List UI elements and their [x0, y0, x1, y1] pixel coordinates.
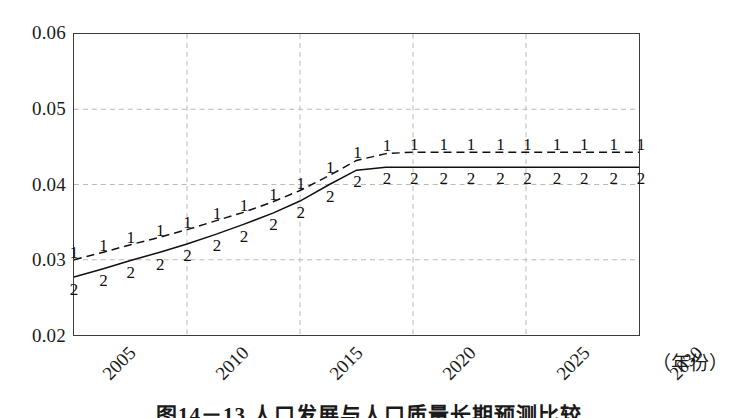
series-marker-1: 1 [580, 135, 589, 152]
x-tick-label: 2025 [552, 342, 594, 384]
series-marker-2: 2 [496, 170, 505, 187]
series-marker-1: 1 [326, 159, 335, 176]
series-marker-2: 2 [99, 272, 108, 289]
y-tick-label: 0.02 [32, 325, 66, 347]
series-marker-2: 2 [297, 204, 306, 221]
series-marker-2: 2 [240, 227, 249, 244]
series-marker-1: 1 [410, 135, 419, 152]
x-axis-tick-labels: 200520102015202020252030 [73, 336, 640, 396]
series-marker-2: 2 [156, 255, 165, 272]
series-marker-1: 1 [269, 185, 278, 202]
series-marker-1: 1 [439, 135, 448, 152]
series-marker-2: 2 [183, 247, 192, 264]
series-marker-2: 2 [580, 170, 589, 187]
series-marker-1: 1 [353, 144, 362, 161]
series-marker-2: 2 [439, 170, 448, 187]
series-marker-1: 1 [99, 236, 108, 253]
series-marker-2: 2 [637, 170, 646, 187]
series-marker-1: 1 [183, 213, 192, 230]
series-marker-2: 2 [213, 237, 222, 254]
series-marker-1: 1 [553, 135, 562, 152]
series-marker-2: 2 [269, 216, 278, 233]
series-marker-1: 1 [70, 244, 79, 261]
x-axis-unit-label: （年份） [652, 348, 728, 375]
series-marker-1: 1 [126, 229, 135, 246]
series-marker-2: 2 [467, 170, 476, 187]
series-marker-1: 1 [297, 174, 306, 191]
x-tick-label: 2020 [438, 342, 480, 384]
y-tick-label: 0.06 [32, 22, 66, 44]
series-marker-1: 1 [637, 135, 646, 152]
series-marker-1: 1 [610, 135, 619, 152]
series-marker-1: 1 [383, 137, 392, 154]
x-tick-label: 2005 [98, 342, 140, 384]
chart-page: 0.060.050.040.030.02 1111111111111111111… [0, 0, 738, 418]
series-marker-1: 1 [240, 196, 249, 213]
figure-caption: 图14－13 人口发展与人口质量长期预测比较 [0, 398, 738, 418]
series-marker-1: 1 [467, 135, 476, 152]
series-marker-1: 1 [496, 135, 505, 152]
y-axis-tick-labels: 0.060.050.040.030.02 [0, 33, 66, 336]
series-marker-2: 2 [610, 170, 619, 187]
series-marker-2: 2 [70, 280, 79, 297]
series-marker-2: 2 [126, 264, 135, 281]
series-marker-1: 1 [213, 204, 222, 221]
y-tick-label: 0.04 [32, 174, 66, 196]
series-marker-2: 2 [410, 170, 419, 187]
series-marker-2: 2 [523, 170, 532, 187]
y-tick-label: 0.05 [32, 98, 66, 120]
series-marker-1: 1 [156, 221, 165, 238]
x-tick-label: 2015 [325, 342, 367, 384]
y-tick-label: 0.03 [32, 249, 66, 271]
series-marker-2: 2 [383, 170, 392, 187]
series-marker-2: 2 [353, 173, 362, 190]
series-marker-2: 2 [553, 170, 562, 187]
x-tick-label: 2010 [212, 342, 254, 384]
series-marker-2: 2 [326, 187, 335, 204]
plot-area: 1111111111111111111112222222222222222222… [73, 33, 640, 336]
series-marker-1: 1 [523, 135, 532, 152]
